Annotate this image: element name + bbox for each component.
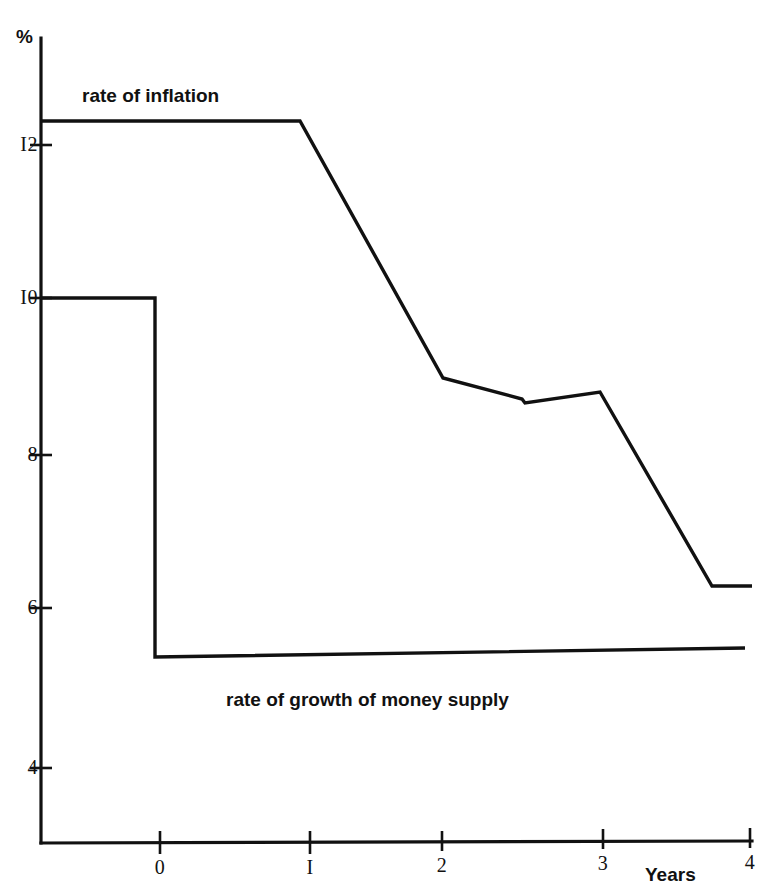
x-tick-label-0: 0 — [135, 857, 185, 877]
series-label-rate-of-growth-of-money-supply: rate of growth of money supply — [226, 690, 509, 709]
x-tick-label-1: I — [285, 857, 335, 877]
x-axis-label: Years — [645, 865, 696, 884]
y-tick-label-4: 4 — [0, 757, 38, 777]
y-tick-label-12: I2 — [0, 134, 38, 154]
y-axis-label: % — [16, 27, 33, 46]
y-tick-label-6: 6 — [0, 597, 38, 617]
y-tick-label-10: I0 — [0, 287, 38, 307]
x-tick-label-4: 4 — [725, 852, 767, 872]
series-label-rate-of-inflation: rate of inflation — [82, 86, 219, 105]
chart-canvas: % I2 I0 8 6 4 0 I 2 3 4 Years rate of in… — [0, 0, 767, 893]
series-line-rate-of-growth-of-money-supply — [41, 298, 745, 657]
x-tick-label-3: 3 — [578, 853, 628, 873]
y-tick-label-8: 8 — [0, 444, 38, 464]
x-tick-label-2: 2 — [417, 855, 467, 875]
series-line-rate-of-inflation — [41, 121, 752, 586]
x-axis — [41, 841, 752, 843]
chart-plot-area — [0, 0, 767, 893]
